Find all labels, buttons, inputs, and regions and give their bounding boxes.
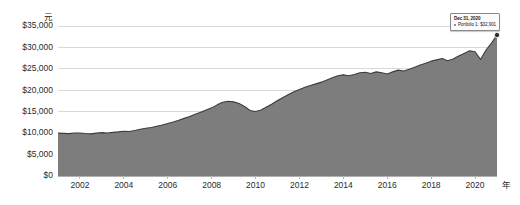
y-axis-unit-label: 元	[44, 12, 53, 22]
x-axis-tick-labels: 2002200420062008201020122014201620182020	[70, 176, 484, 190]
x-axis-unit-label: 年	[502, 180, 511, 190]
tooltip-series-swatch	[454, 24, 456, 26]
y-tick-label: $5,000	[27, 149, 53, 159]
x-tick-label: 2014	[334, 180, 353, 190]
tooltip-series-row: Portfolio 1: $32,901	[454, 22, 496, 28]
y-tick-label: $25,000	[22, 63, 53, 73]
x-tick-label: 2020	[466, 180, 485, 190]
y-tick-label: $0	[44, 170, 54, 180]
x-tick-label: 2008	[202, 180, 221, 190]
tooltip-date: Dec 31, 2020	[454, 16, 496, 22]
y-tick-label: $15,000	[22, 106, 53, 116]
x-tick-label: 2010	[246, 180, 265, 190]
x-tick-label: 2016	[378, 180, 397, 190]
x-tick-label: 2006	[158, 180, 177, 190]
x-tick-label: 2018	[422, 180, 441, 190]
x-tick-label: 2004	[114, 180, 133, 190]
y-axis-tick-labels: $35,000$30,000$25,000$20,000$15,000$10,0…	[22, 20, 53, 180]
tooltip-series-label: Portfolio 1:	[458, 22, 479, 28]
x-tick-label: 2002	[70, 180, 89, 190]
y-tick-label: $30,000	[22, 42, 53, 52]
tooltip-series-value: $32,901	[480, 22, 496, 28]
y-tick-label: $10,000	[22, 127, 53, 137]
series-group	[58, 35, 497, 176]
x-tick-label: 2012	[290, 180, 309, 190]
endpoint-marker	[494, 32, 499, 37]
portfolio-growth-chart: $35,000$30,000$25,000$20,000$15,000$10,0…	[0, 0, 520, 205]
chart-plot-area: $35,000$30,000$25,000$20,000$15,000$10,0…	[0, 0, 520, 205]
endpoint-tooltip: Dec 31, 2020 Portfolio 1: $32,901	[450, 13, 500, 31]
y-tick-label: $20,000	[22, 85, 53, 95]
